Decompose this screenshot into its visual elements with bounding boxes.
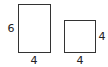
square-shape [64,20,96,53]
rectangle-width-label: 4 [29,55,39,66]
rectangle-height-label: 6 [6,23,16,34]
rectangle-shape [18,4,51,53]
square-width-label: 4 [75,55,85,66]
square-height-label: 4 [97,31,107,42]
